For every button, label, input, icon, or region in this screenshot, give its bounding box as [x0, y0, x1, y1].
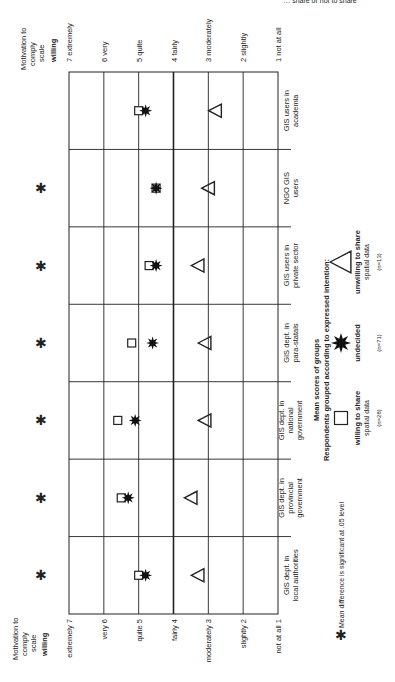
undecided-star-marker-icon — [122, 491, 135, 504]
group-label: provincial — [286, 482, 295, 514]
footnote: ✱Mean difference is significant at .05 l… — [335, 502, 347, 643]
axis-title-line: Motivation to — [11, 617, 20, 660]
legend-square-icon — [335, 412, 348, 425]
group-label: GIS dept. in — [277, 401, 286, 441]
axis-title-bold: willing — [49, 38, 58, 63]
unwilling-triangle-marker-icon — [198, 414, 211, 427]
axis-title-bold: willing — [40, 632, 49, 657]
significance-markers: ✱✱✱✱✱✱ — [35, 180, 47, 583]
axis-title-line: comply — [20, 632, 29, 656]
bottom-scale-axis: Motivation tocomplyscalewillingextremely… — [11, 617, 283, 662]
scale-label-top: 4 fairly — [170, 40, 179, 62]
scale-label-bottom: very 6 — [100, 619, 109, 639]
significance-asterisk-icon: ✱ — [35, 258, 47, 274]
scale-label-bottom: quite 5 — [135, 619, 144, 642]
scale-label-bottom: moderately 3 — [204, 619, 213, 662]
header-fragment-text: … share or not to share — [283, 0, 357, 4]
undecided-star-marker-icon — [139, 104, 152, 117]
legend-item-n: (n=13) — [376, 253, 382, 271]
axis-title-line: comply — [28, 42, 37, 66]
legend-item-label: spatial data — [363, 244, 371, 280]
scale-label-top: 6 very — [100, 41, 109, 62]
legend-item-label: spatial data — [363, 400, 371, 436]
group-label: para-statals — [291, 323, 300, 362]
undecided-star-marker-icon — [146, 337, 159, 350]
axis-title-line: scale — [29, 634, 38, 652]
group-label: national — [286, 407, 295, 434]
header-fragment: … share or not to share — [283, 0, 357, 4]
scale-label-top: 2 slightly — [239, 33, 248, 62]
axis-title-line: scale — [37, 44, 46, 62]
data-points — [114, 104, 222, 582]
legend-item-n: (n=28) — [376, 409, 382, 427]
unwilling-triangle-marker-icon — [198, 336, 211, 349]
legend-subtitle: Respondents grouped according to express… — [322, 259, 331, 461]
scale-label-top: 7 extremely — [65, 23, 74, 62]
unwilling-triangle-marker-icon — [191, 259, 204, 272]
undecided-star-marker-icon — [150, 182, 163, 195]
undecided-star-marker-icon — [150, 259, 163, 272]
significance-asterisk-icon: ✱ — [35, 180, 47, 196]
group-label: local authorities — [291, 549, 300, 601]
top-scale-axis: Motivation tocomplyscalewilling7 extreme… — [19, 18, 283, 70]
group-label: government — [295, 477, 304, 518]
scale-label-bottom: extremely 7 — [65, 619, 74, 658]
legend-item-label: undecided — [353, 324, 362, 362]
scale-label-top: 5 quite — [135, 39, 144, 62]
group-label: government — [295, 400, 304, 441]
axis-title-line: Motivation to — [19, 27, 28, 70]
group-label: NGO GIS — [282, 172, 291, 204]
group-label: users — [291, 179, 300, 198]
footnote-text: Mean difference is significant at .05 le… — [338, 502, 346, 628]
legend-triangle-icon — [330, 251, 351, 273]
unwilling-triangle-marker-icon — [184, 491, 197, 504]
legend-star-icon — [331, 333, 351, 353]
motivation-chart: … share or not to share Motivation tocom… — [0, 0, 395, 682]
scale-label-top: 3 moderately — [204, 18, 213, 62]
scale-label-bottom: slightly 2 — [239, 619, 248, 648]
unwilling-triangle-marker-icon — [191, 569, 204, 582]
group-label: GIS users in — [282, 245, 291, 286]
plot-grid — [69, 72, 291, 614]
group-label: private sector — [291, 243, 300, 289]
significance-asterisk-icon: ✱ — [35, 412, 47, 428]
group-labels: GIS dept. inlocal authoritiesGIS dept. i… — [277, 90, 304, 601]
group-label: academia — [291, 94, 300, 127]
group-label: GIS dept. in — [282, 323, 291, 363]
undecided-star-marker-icon — [139, 569, 152, 582]
legend-item-label: willing to share — [353, 391, 362, 447]
willing-square-marker-icon — [128, 339, 136, 347]
group-label: GIS dept. in — [282, 555, 291, 595]
legend-title: Mean scores of groups — [312, 339, 321, 421]
significance-asterisk-icon: ✱ — [35, 490, 47, 506]
significance-asterisk-icon: ✱ — [35, 567, 47, 583]
willing-square-marker-icon — [114, 416, 122, 424]
scale-label-bottom: fairly 4 — [170, 619, 179, 641]
group-label: GIS dept. in — [277, 478, 286, 518]
legend-item-n: (n=71) — [376, 334, 382, 352]
undecided-star-marker-icon — [129, 414, 142, 427]
footnote-asterisk-icon: ✱ — [335, 627, 347, 643]
significance-asterisk-icon: ✱ — [35, 335, 47, 351]
scale-label-bottom: not at all 1 — [274, 619, 283, 654]
legend: Mean scores of groupsRespondents grouped… — [312, 230, 382, 461]
scale-label-top: 1 not at all — [274, 27, 283, 62]
group-label: GIS users in — [282, 90, 291, 131]
legend-item-label: unwilling to share — [353, 230, 362, 294]
unwilling-triangle-marker-icon — [209, 104, 222, 117]
